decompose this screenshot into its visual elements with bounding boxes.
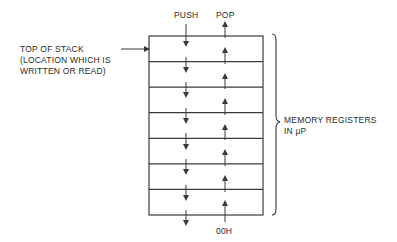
row-dividers: [149, 62, 263, 190]
stack-diagram: [0, 0, 397, 242]
stack-box: [149, 36, 263, 215]
right-brace-icon: [272, 34, 280, 215]
